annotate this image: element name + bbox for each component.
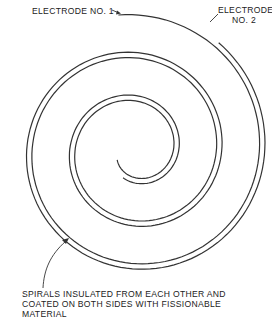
electrode-1-arrowhead [116,11,121,15]
electrode-2-spiral [27,43,266,269]
spiral-electrode-diagram [0,0,272,320]
spirals-note-leader-arrow [43,241,66,288]
electrode-2-label: ELECTRODE NO. 2 [218,5,270,25]
spirals-note-label: SPIRALS INSULATED FROM EACH OTHER AND CO… [22,289,226,319]
electrode-1-label: ELECTRODE NO. 1 [32,6,114,16]
electrode-2-leader [210,14,218,22]
